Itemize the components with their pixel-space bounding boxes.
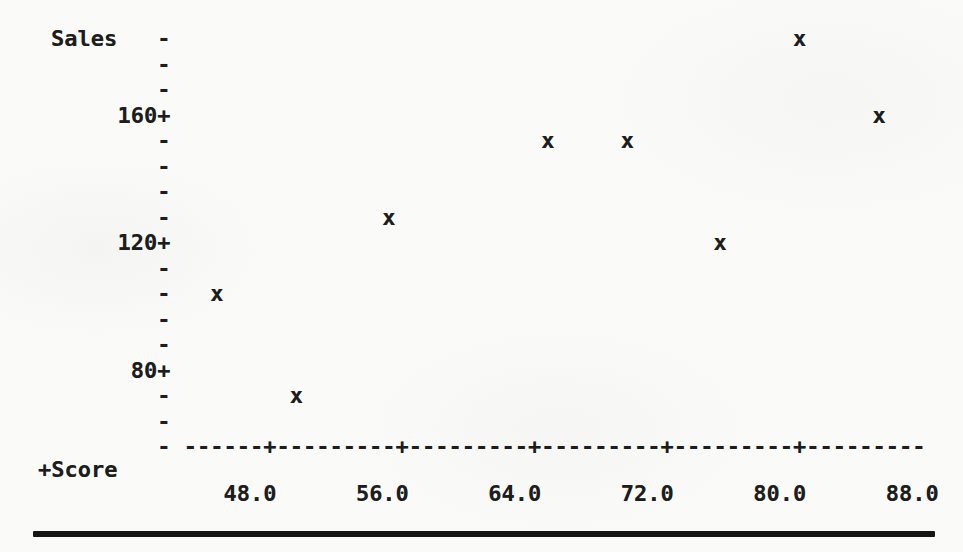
y-axis-dash-row: - (117, 307, 170, 333)
bottom-rule (33, 531, 935, 537)
data-point-marker: x (713, 230, 726, 256)
y-axis-dash-row: - (117, 26, 170, 52)
y-axis-dash-row: - (117, 128, 170, 154)
data-point-marker: x (621, 128, 634, 154)
y-axis-dash-row: - (117, 154, 170, 180)
data-point-marker: x (541, 128, 554, 154)
y-axis-dash-row: - (117, 434, 170, 460)
y-axis-tick-160: 160+ (117, 103, 170, 129)
y-axis-dash-row: - (117, 281, 170, 307)
data-point-marker: x (290, 383, 303, 409)
scatter-plot: Sales +Score - - -160+ - - - -120+ - - -… (0, 0, 963, 552)
y-axis-dash-row: - (117, 409, 170, 435)
x-axis-tick-labels: 48.0 56.0 64.0 72.0 80.0 88.0 (38, 481, 939, 507)
y-axis-title: Sales (51, 26, 117, 52)
scanned-page: Sales +Score - - -160+ - - - -120+ - - -… (0, 0, 963, 552)
y-axis-dash-row: - (117, 179, 170, 205)
y-axis-dash-row: - (117, 256, 170, 282)
data-point-marker: x (793, 26, 806, 52)
y-axis-tick-120: 120+ (117, 230, 170, 256)
y-axis-dash-row: - (117, 77, 170, 103)
y-axis-dash-row: - (117, 52, 170, 78)
data-point-marker: x (872, 103, 885, 129)
x-axis-title: +Score (38, 457, 117, 483)
data-point-marker: x (382, 205, 395, 231)
y-axis-dash-row: - (117, 332, 170, 358)
y-axis-tick-80: 80+ (117, 358, 170, 384)
data-point-marker: x (210, 281, 223, 307)
y-axis-dash-row: - (117, 383, 170, 409)
x-axis-line: ------+---------+---------+---------+---… (184, 434, 926, 460)
y-axis-dash-row: - (117, 205, 170, 231)
